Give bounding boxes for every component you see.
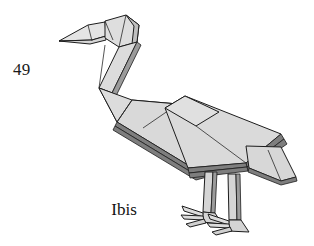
tail-main [246,146,296,181]
front-toe-2 [207,223,230,228]
front-toe-3 [212,227,232,235]
beak-group [59,22,106,44]
tail-group [246,146,297,185]
book-page: 49 [0,0,314,246]
figure-caption: Ibis [0,201,248,218]
back-toe-3 [186,219,206,227]
head-group [105,15,139,47]
